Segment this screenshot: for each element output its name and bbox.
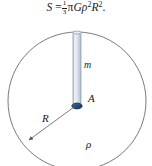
- label-area: A: [88, 93, 95, 104]
- cross-section-disk: [72, 103, 82, 109]
- label-mass: m: [84, 60, 91, 70]
- formula-fraction: 13: [62, 0, 67, 15]
- radius-arrow: [29, 107, 74, 140]
- pressure-formula: S =13πGρ2R2.: [0, 0, 152, 16]
- formula-period: .: [103, 1, 106, 13]
- physics-figure: S =13πGρ2R2. m A R ρ: [0, 0, 152, 166]
- cylinder-top-cap: [73, 31, 81, 34]
- formula-lhs: S: [46, 1, 52, 13]
- formula-equals: =: [55, 1, 62, 13]
- formula-R: R: [91, 1, 98, 13]
- fraction-denominator: 3: [62, 9, 67, 16]
- label-density: ρ: [86, 139, 91, 150]
- formula-G: G: [73, 1, 81, 13]
- sphere-diagram: [0, 18, 152, 166]
- label-radius: R: [42, 113, 49, 124]
- cylinder-column: [73, 32, 81, 106]
